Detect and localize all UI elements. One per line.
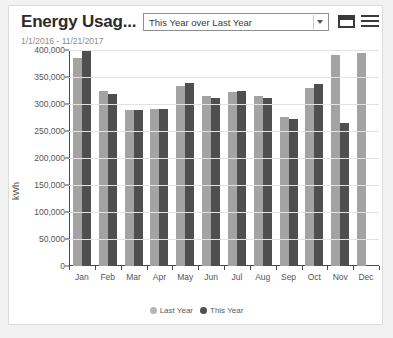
- comparison-mode-selected-value: This Year over Last Year: [149, 17, 252, 28]
- gridline: [69, 212, 379, 213]
- y-axis-tick-200000: 200,000: [34, 153, 65, 163]
- x-tick-mark: [250, 266, 251, 270]
- energy-usage-bar-chart: kWh 400,000350,000300,000250,000200,0001…: [9, 50, 384, 300]
- bar-feb-this-year[interactable]: [108, 94, 117, 266]
- bar-sep-this-year[interactable]: [289, 119, 298, 266]
- chevron-down-icon: [317, 20, 323, 24]
- x-axis-tick-jul: Jul: [224, 272, 250, 286]
- card-header: Energy Usag... 1/1/2016 - 11/21/2017 Thi…: [9, 6, 382, 40]
- y-axis-tick-250000: 250,000: [34, 126, 65, 136]
- bar-aug-last-year[interactable]: [254, 96, 263, 266]
- bar-dec-last-year[interactable]: [357, 53, 366, 266]
- window-icon[interactable]: [338, 15, 355, 28]
- bar-sep-last-year[interactable]: [280, 117, 289, 266]
- x-tick-mark: [95, 266, 96, 270]
- bar-apr-this-year[interactable]: [159, 109, 168, 266]
- hamburger-menu-icon[interactable]: [361, 15, 379, 28]
- gridline: [69, 104, 379, 105]
- bar-jun-this-year[interactable]: [211, 98, 220, 266]
- y-axis-tick-labels: 400,000350,000300,000250,000200,000150,0…: [9, 50, 65, 270]
- gridline: [69, 50, 379, 51]
- legend-label: Last Year: [160, 306, 193, 315]
- legend-item-last-year[interactable]: Last Year: [150, 306, 193, 315]
- chart-legend: Last YearThis Year: [9, 306, 384, 315]
- y-axis-tick-150000: 150,000: [34, 180, 65, 190]
- bar-apr-last-year[interactable]: [150, 109, 159, 266]
- x-axis-tick-labels: JanFebMarAprMayJunJulAugSepOctNovDec: [69, 272, 379, 286]
- x-tick-mark: [69, 266, 70, 270]
- comparison-mode-select[interactable]: This Year over Last Year: [143, 13, 329, 31]
- x-axis-tick-apr: Apr: [146, 272, 172, 286]
- x-axis-tick-oct: Oct: [301, 272, 327, 286]
- x-axis-tick-aug: Aug: [250, 272, 276, 286]
- select-divider: [313, 15, 314, 29]
- x-axis-tick-feb: Feb: [95, 272, 121, 286]
- gridline: [69, 131, 379, 132]
- x-tick-mark: [198, 266, 199, 270]
- x-tick-mark: [147, 266, 148, 270]
- x-tick-mark: [276, 266, 277, 270]
- x-axis-tick-dec: Dec: [353, 272, 379, 286]
- gridline: [69, 239, 379, 240]
- energy-usage-card: Energy Usag... 1/1/2016 - 11/21/2017 Thi…: [8, 5, 383, 325]
- x-axis-tick-may: May: [172, 272, 198, 286]
- x-axis-tick-mar: Mar: [121, 272, 147, 286]
- x-tick-mark: [224, 266, 225, 270]
- y-axis-tick-400000: 400,000: [34, 45, 65, 55]
- x-axis-tick-sep: Sep: [276, 272, 302, 286]
- x-axis-tick-jan: Jan: [69, 272, 95, 286]
- menu-bar-3: [361, 25, 379, 27]
- x-tick-mark: [121, 266, 122, 270]
- bar-mar-this-year[interactable]: [134, 110, 143, 266]
- bar-jun-last-year[interactable]: [202, 96, 211, 266]
- bar-aug-this-year[interactable]: [263, 98, 272, 266]
- y-axis-tick-50000: 50,000: [39, 234, 65, 244]
- legend-item-this-year[interactable]: This Year: [200, 306, 243, 315]
- bar-nov-last-year[interactable]: [331, 55, 340, 266]
- plot-area: [69, 50, 379, 266]
- bar-nov-this-year[interactable]: [340, 123, 349, 266]
- gridline: [69, 185, 379, 186]
- x-tick-mark: [302, 266, 303, 270]
- legend-label: This Year: [210, 306, 243, 315]
- x-tick-mark: [327, 266, 328, 270]
- x-axis-tick-nov: Nov: [327, 272, 353, 286]
- page-title: Energy Usag...: [21, 12, 136, 32]
- x-tick-mark: [379, 266, 380, 270]
- y-axis-tick-300000: 300,000: [34, 99, 65, 109]
- legend-marker-icon: [200, 307, 207, 314]
- legend-marker-icon: [150, 307, 157, 314]
- menu-bar-1: [361, 15, 379, 17]
- x-tick-mark: [353, 266, 354, 270]
- gridline: [69, 77, 379, 78]
- y-axis-tick-100000: 100,000: [34, 207, 65, 217]
- bar-jan-last-year[interactable]: [73, 58, 82, 266]
- x-axis-tick-jun: Jun: [198, 272, 224, 286]
- menu-bar-2: [361, 20, 379, 22]
- y-axis-tick-350000: 350,000: [34, 72, 65, 82]
- bar-mar-last-year[interactable]: [125, 110, 134, 266]
- x-tick-mark: [172, 266, 173, 270]
- gridline: [69, 158, 379, 159]
